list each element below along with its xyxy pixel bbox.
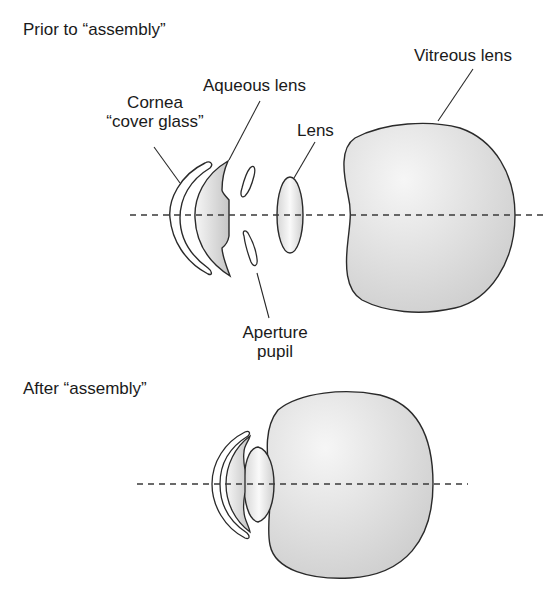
label-lens: Lens: [297, 121, 334, 140]
after-assembly-group: [137, 392, 468, 578]
label-vitreous-lens: Vitreous lens: [414, 46, 512, 65]
label-aqueous-lens: Aqueous lens: [203, 76, 306, 95]
label-cornea-line2: “cover glass”: [90, 112, 220, 131]
vitreous-body-shape: [344, 123, 515, 312]
after-section-title: After “assembly”: [23, 379, 147, 398]
aperture-lower-shape: [243, 231, 257, 266]
aperture-upper-shape: [241, 166, 255, 196]
leader-lens: [294, 142, 315, 178]
before-section-title: Prior to “assembly”: [23, 20, 166, 39]
label-cornea: Cornea “cover glass”: [90, 93, 220, 131]
leader-aperture: [257, 273, 269, 318]
label-aperture-line1: Aperture: [220, 323, 330, 342]
leader-vitreous: [438, 69, 473, 121]
leader-cornea: [154, 147, 180, 183]
assembled-vitreous-shape: [267, 392, 433, 578]
label-aperture-line2: pupil: [220, 342, 330, 361]
label-aperture: Aperture pupil: [220, 323, 330, 361]
label-cornea-line1: Cornea: [90, 93, 220, 112]
aqueous-lens-shape: [195, 161, 230, 276]
leader-aqueous: [229, 101, 260, 160]
